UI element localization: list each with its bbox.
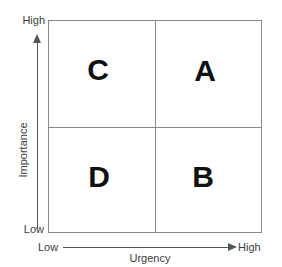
- y-axis-high-label: High: [0, 14, 45, 26]
- matrix-diagram: C A D B High Low Importance Low High Urg…: [0, 0, 282, 267]
- matrix-horizontal-divider: [48, 127, 262, 128]
- quadrant-label-bottom-left: D: [79, 162, 119, 192]
- x-axis-high-label: High: [238, 241, 261, 253]
- y-axis-low-label: Low: [0, 223, 44, 235]
- y-axis-line: [37, 42, 38, 229]
- quadrant-label-bottom-right: B: [183, 162, 223, 192]
- x-axis-arrowhead-icon: [228, 243, 237, 251]
- quadrant-label-top-right: A: [185, 56, 225, 86]
- quadrant-label-top-left: C: [78, 55, 118, 85]
- x-axis-low-label: Low: [38, 241, 58, 253]
- x-axis-line: [63, 247, 229, 248]
- x-axis-title: Urgency: [105, 252, 195, 264]
- y-axis-title: Importance: [17, 105, 29, 195]
